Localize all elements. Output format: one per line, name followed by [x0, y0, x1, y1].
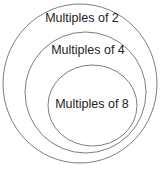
label-multiples-of-8: Multiples of 8 — [55, 97, 129, 111]
label-multiples-of-2: Multiples of 2 — [45, 11, 119, 25]
label-multiples-of-4: Multiples of 4 — [51, 43, 125, 57]
nested-sets-diagram — [0, 0, 160, 172]
